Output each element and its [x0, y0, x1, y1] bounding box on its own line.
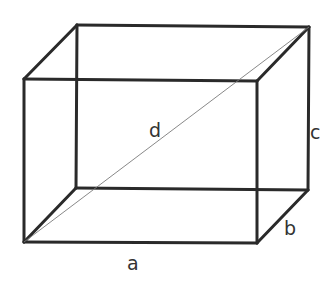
edge-depth-bottom-left [24, 188, 76, 242]
cuboid-diagram: d c b a [0, 0, 331, 283]
edge-back-right [308, 27, 309, 190]
label-length-a: a [127, 252, 139, 274]
edge-back-top [77, 25, 309, 27]
label-depth-b: b [284, 217, 296, 239]
front-face [24, 79, 257, 243]
edge-depth-top-left [24, 25, 77, 79]
edge-depth-top-right [257, 27, 309, 81]
label-height-c: c [310, 121, 320, 143]
space-diagonal-line [24, 27, 309, 242]
edge-back-left [76, 25, 77, 188]
edge-back-bottom [76, 188, 308, 190]
edge-depth-bottom-right [257, 190, 308, 243]
back-face [76, 25, 309, 190]
label-diagonal-d: d [149, 119, 161, 141]
edge-front-top [24, 79, 257, 81]
edge-front-bottom [24, 242, 257, 243]
